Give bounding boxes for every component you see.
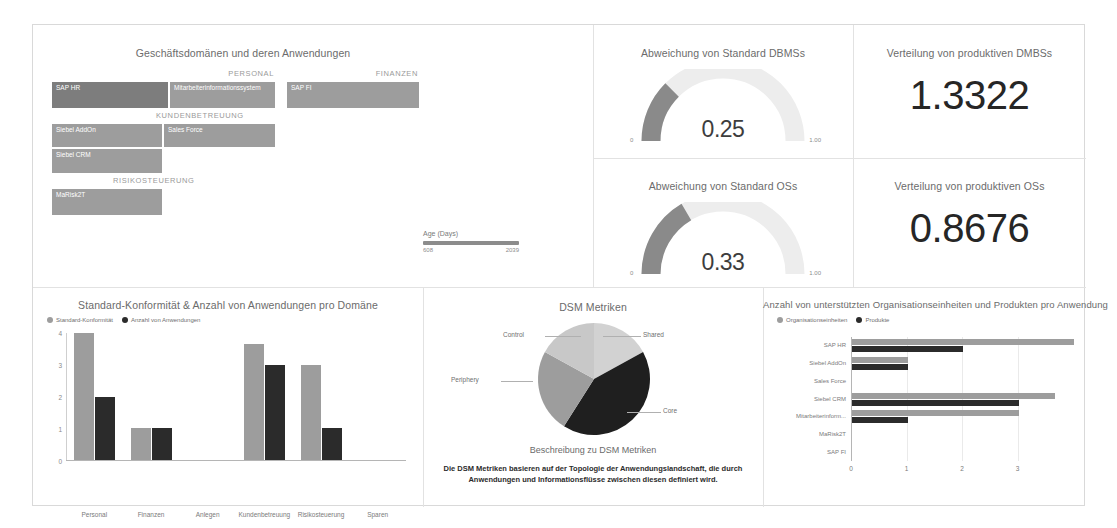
pie-leader-shared [603,336,641,337]
hbar-chart-category-label: Siebel AddOn [809,360,846,366]
hbar-chart-category-label: Siebel CRM [814,396,846,402]
pie-label-core: Core [663,407,677,414]
bar-chart-bar[interactable] [95,397,115,461]
gauge-panel-dbms: Abweichung von Standard DBMSs 0 1.00 0.2… [593,25,853,158]
treemap-cell-label: Sales Force [168,126,203,133]
pie-label-control: Control [503,331,524,338]
bar-chart-category-label: Kundenbetreuung [238,511,290,518]
treemap-group-kundenbetreuung: KUNDENBETREUUNG Siebel AddOn Sales Force… [51,123,276,174]
kpi-value-dbms: 1.3322 [853,73,1086,118]
age-days-max: 2039 [506,247,519,253]
treemap-cell-sales-force[interactable]: Sales Force [163,123,276,148]
gauge-dbms: 0 1.00 0.25 [633,69,813,145]
pie-leader-control [545,336,581,337]
hbar-chart-group[interactable]: Mitarbeiterinform... [852,410,1019,423]
bar-chart-bar[interactable] [244,344,264,460]
bar-chart-category-label: Finanzen [138,511,165,518]
kpi-title-dbms: Verteilung von produktiven DMBSs [853,47,1086,59]
bar-chart-y-tick: 4 [52,330,62,337]
kpi-panel-dbms: Verteilung von produktiven DMBSs 1.3322 [853,25,1086,158]
treemap-cell-label: MaRisk2T [56,191,85,198]
bar-chart-y-tick: 0 [52,458,62,465]
hbar-chart-x-tick: 0 [849,465,853,472]
pie-description-body: Die DSM Metriken basieren auf der Topolo… [431,463,755,486]
legend-item[interactable]: Produkte [856,317,889,323]
treemap-title: Geschäftsdomänen und deren Anwendungen [33,47,453,59]
treemap-group-label-kundenbetreuung: KUNDENBETREUUNG [156,111,244,120]
hbar-chart-bar[interactable] [852,339,1074,345]
hbar-chart-category-label: SAP HR [824,342,846,348]
age-days-label: Age (Days) [423,230,553,237]
legend-dot-icon [47,317,53,323]
bar-chart-bar[interactable] [131,428,151,460]
hbar-chart-group[interactable]: Siebel AddOn [852,357,908,370]
pie-description-title: Beschreibung zu DSM Metriken [423,445,763,455]
treemap-cell-sap-hr[interactable]: SAP HR [51,81,169,109]
legend-item[interactable]: Anzahl von Anwendungen [122,317,200,323]
pie-chart-title: DSM Metriken [423,301,763,313]
hbar-chart-bar[interactable] [852,364,908,370]
hbar-chart-bar[interactable] [852,346,963,352]
age-days-scale: 608 2039 [423,247,519,253]
bar-chart-group[interactable] [244,344,285,460]
treemap-cell-label: Siebel CRM [56,151,91,158]
hbar-chart-group[interactable]: SAP HR [852,339,1074,352]
gauge-panel-os: Abweichung von Standard OSs 0 1.00 0.33 [593,158,853,291]
treemap-cell-mitarbeiterinformationssystem[interactable]: Mitarbeiterinformationssystem [169,81,276,109]
hbar-chart-x-tick: 3 [1016,465,1020,472]
bar-chart-bar[interactable] [301,365,321,460]
bar-chart-group[interactable] [131,428,172,460]
treemap-cell-label: Mitarbeiterinformationssystem [174,84,261,91]
treemap-cell-marisk2t[interactable]: MaRisk2T [51,188,163,216]
treemap-group-label-personal: PERSONAL [228,69,274,78]
bar-chart-y-tick: 3 [52,362,62,369]
treemap-group-label-finanzen: FINANZEN [376,69,418,78]
bar-chart-bar[interactable] [74,333,94,460]
legend-label: Produkte [865,317,889,323]
bar-chart-bar[interactable] [322,428,342,460]
age-days-filter[interactable]: Age (Days) 608 2039 [423,230,553,290]
hbar-chart-bar[interactable] [852,417,908,423]
pie-chart-graphic: Shared Core Periphery Control [519,319,669,439]
dashboard-canvas: Geschäftsdomänen und deren Anwendungen P… [32,24,1085,506]
legend-item[interactable]: Organisationseinheiten [777,317,847,323]
hbar-chart-bar[interactable] [852,410,1019,416]
hbar-chart-category-label: Mitarbeiterinform... [796,413,846,419]
treemap-group-risikosteuerung: RISIKOSTEUERUNG MaRisk2T [51,188,163,216]
legend-item[interactable]: Standard-Konformität [47,317,113,323]
pie-chart-panel: DSM Metriken Shared Core Periphery Contr… [423,287,763,507]
treemap-group-personal: PERSONAL SAP HR Mitarbeiterinformationss… [51,81,276,109]
legend-label: Standard-Konformität [56,317,113,323]
gauge-title-os: Abweichung von Standard OSs [593,180,853,192]
legend-label: Anzahl von Anwendungen [131,317,200,323]
legend-dot-icon [122,317,128,323]
hbar-chart-x-tick: 1 [905,465,909,472]
hbar-chart-plot: 0123SAP HRSiebel AddOnSales ForceSiebel … [851,337,1073,461]
bar-chart-group[interactable] [74,333,115,460]
bar-chart-y-tick: 2 [52,394,62,401]
age-days-min: 608 [423,247,433,253]
hbar-chart-category-label: SAP FI [827,449,846,455]
legend-label: Organisationseinheiten [786,317,847,323]
pie-description-line-1: Die DSM Metriken basieren auf der Topolo… [431,463,755,474]
hbar-chart-bar[interactable] [852,400,1019,406]
hbar-chart-bar[interactable] [852,357,908,363]
bar-chart-y-tick: 1 [52,426,62,433]
hbar-chart-bar[interactable] [852,393,1055,399]
bar-chart-group[interactable] [301,365,342,460]
hbar-chart-group[interactable]: Siebel CRM [852,393,1055,406]
bar-chart-x-axis [66,460,406,461]
treemap-cell-sap-fi[interactable]: SAP FI [286,81,420,109]
legend-dot-icon [856,317,862,323]
treemap-group-label-risikosteuerung: RISIKOSTEUERUNG [113,176,195,185]
pie-leader-core [627,412,661,413]
bar-chart-category-label: Sparen [367,511,388,518]
bar-chart-bar[interactable] [152,428,172,460]
bar-chart-category-label: Risikosteuerung [298,511,345,518]
treemap-cell-siebel-crm[interactable]: Siebel CRM [51,148,163,174]
age-days-slider-track[interactable] [423,241,519,245]
hbar-chart-panel: Anzahl von unterstützten Organisationsei… [763,287,1086,507]
bar-chart-bar[interactable] [265,365,285,460]
kpi-panel-os: Verteilung von produktiven OSs 0.8676 [853,158,1086,291]
treemap-cell-siebel-addon[interactable]: Siebel AddOn [51,123,163,148]
